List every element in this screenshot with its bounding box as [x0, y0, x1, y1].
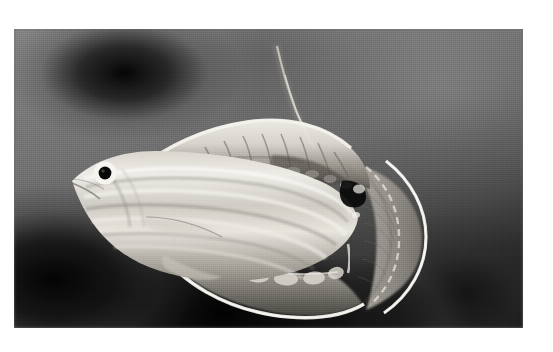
page-canvas: reef fish in left profile with fins full… [0, 0, 553, 352]
photo-caption: reef fish in left profile with fins full… [0, 0, 19, 1]
fish-illustration [14, 29, 523, 328]
fish-subject [14, 29, 523, 328]
eye-icon [94, 162, 117, 185]
fish-photograph [14, 29, 523, 328]
